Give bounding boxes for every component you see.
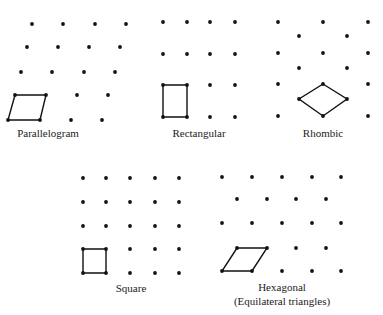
lattice-point	[128, 176, 132, 180]
lattice-point	[208, 20, 212, 24]
lattice-point	[250, 221, 254, 225]
lattice-point	[56, 45, 60, 49]
lattice-point	[104, 200, 108, 204]
lattice-point	[50, 70, 54, 74]
lattice-point	[310, 269, 314, 273]
unit-cell-rhombus	[299, 84, 347, 116]
lattice-point	[81, 176, 85, 180]
lattice-point	[81, 200, 85, 204]
lattice-point	[153, 247, 157, 251]
panel-hexagonal: Hexagonal (Equilateral triangles)	[220, 175, 343, 308]
lattice-point	[61, 22, 65, 26]
lattice-point	[233, 115, 237, 119]
label-parallelogram: Parallelogram	[17, 127, 79, 139]
lattice-point	[233, 20, 237, 24]
lattice-points	[276, 20, 370, 118]
unit-cell-hexagonal	[222, 248, 267, 271]
lattice-point	[276, 51, 280, 55]
lattice-point	[128, 200, 132, 204]
lattice-points	[220, 175, 343, 273]
label-rhombic: Rhombic	[303, 127, 343, 139]
lattice-point	[366, 20, 370, 24]
panel-rhombic: Rhombic	[276, 20, 370, 139]
lattice-point	[69, 118, 73, 122]
lattice-point	[276, 20, 280, 24]
lattice-point	[339, 221, 343, 225]
lattice-point	[177, 200, 181, 204]
lattice-point	[25, 45, 29, 49]
lattice-point	[177, 176, 181, 180]
lattice-point	[30, 22, 34, 26]
lattice-point	[220, 221, 224, 225]
lattice-point	[345, 34, 349, 38]
panel-rectangular: Rectangular	[161, 20, 237, 139]
lattice-diagram: Parallelogram Rectangular Rhombic Square…	[0, 0, 383, 315]
label-hexagonal: Hexagonal	[258, 281, 306, 293]
lattice-point	[250, 175, 254, 179]
label-hexagonal-subtitle: (Equilateral triangles)	[234, 295, 331, 308]
lattice-point	[235, 197, 239, 201]
lattice-point	[208, 52, 212, 56]
lattice-point	[185, 52, 189, 56]
lattice-point	[280, 175, 284, 179]
lattice-point	[366, 82, 370, 86]
lattice-point	[19, 70, 23, 74]
lattice-point	[220, 175, 224, 179]
lattice-point	[177, 271, 181, 275]
lattice-point	[104, 224, 108, 228]
lattice-point	[233, 52, 237, 56]
unit-cell-square	[83, 249, 106, 273]
lattice-point	[208, 83, 212, 87]
lattice-point	[339, 175, 343, 179]
lattice-point	[153, 224, 157, 228]
lattice-point	[276, 82, 280, 86]
lattice-point	[345, 66, 349, 70]
lattice-point	[321, 51, 325, 55]
lattice-point	[280, 221, 284, 225]
lattice-point	[294, 246, 298, 250]
lattice-point	[153, 200, 157, 204]
unit-cell-rectangle	[163, 85, 187, 117]
lattice-point	[104, 176, 108, 180]
label-rectangular: Rectangular	[172, 127, 225, 139]
panel-square: Square	[81, 176, 181, 294]
lattice-point	[208, 115, 212, 119]
lattice-point	[106, 93, 110, 97]
lattice-point	[153, 176, 157, 180]
lattice-point	[161, 20, 165, 24]
lattice-point	[161, 52, 165, 56]
lattice-point	[321, 20, 325, 24]
lattice-point	[124, 22, 128, 26]
lattice-point	[310, 221, 314, 225]
lattice-point	[128, 247, 132, 251]
lattice-point	[118, 45, 122, 49]
lattice-point	[265, 197, 269, 201]
lattice-point	[324, 246, 328, 250]
lattice-point	[297, 34, 301, 38]
lattice-points	[161, 20, 237, 119]
unit-cell-parallelogram	[8, 95, 46, 120]
lattice-point	[233, 83, 237, 87]
label-square: Square	[116, 282, 147, 294]
lattice-point	[294, 197, 298, 201]
lattice-point	[366, 51, 370, 55]
lattice-points	[6, 22, 128, 122]
lattice-point	[100, 118, 104, 122]
lattice-point	[82, 70, 86, 74]
lattice-point	[128, 224, 132, 228]
panel-parallelogram: Parallelogram	[6, 22, 128, 139]
lattice-point	[297, 66, 301, 70]
lattice-point	[93, 22, 97, 26]
lattice-point	[185, 20, 189, 24]
lattice-point	[75, 93, 79, 97]
lattice-points	[81, 176, 181, 275]
lattice-point	[81, 224, 85, 228]
lattice-point	[128, 271, 132, 275]
lattice-point	[324, 197, 328, 201]
lattice-point	[339, 269, 343, 273]
lattice-point	[87, 45, 91, 49]
lattice-point	[366, 114, 370, 118]
lattice-point	[276, 114, 280, 118]
lattice-point	[177, 247, 181, 251]
lattice-point	[280, 269, 284, 273]
